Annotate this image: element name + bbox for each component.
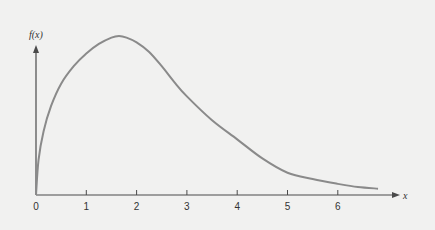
y-axis-arrow-icon xyxy=(33,45,39,53)
x-axis-label: x xyxy=(402,190,408,201)
x-tick-label: 0 xyxy=(33,201,39,212)
series-line-f xyxy=(36,36,378,195)
x-tick-label: 1 xyxy=(84,201,90,212)
x-tick-label: 2 xyxy=(134,201,140,212)
x-tick-label: 5 xyxy=(285,201,291,212)
y-axis-label: f(x) xyxy=(29,29,44,41)
x-tick-label: 4 xyxy=(234,201,240,212)
x-axis-arrow-icon xyxy=(392,192,400,198)
x-tick-label: 3 xyxy=(184,201,190,212)
chart: x f(x) 0123456 xyxy=(0,0,435,230)
x-tick-label: 6 xyxy=(335,201,341,212)
x-ticks: 0123456 xyxy=(33,190,341,212)
